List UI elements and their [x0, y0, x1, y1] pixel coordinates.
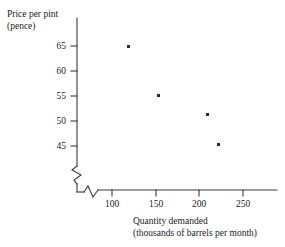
data-point [127, 45, 130, 48]
x-axis-title-line2: (thousands of barrels per month) [133, 228, 257, 238]
x-axis-title: Quantity demanded(thousands of barrels p… [133, 216, 257, 239]
y-axis-break-zigzag [72, 166, 81, 184]
x-axis-break-zigzag [84, 186, 98, 197]
data-point [217, 143, 220, 146]
data-point [157, 94, 160, 97]
demand-curve-scatter-chart: Price per pint(pence) 65 60 55 50 45 100… [0, 0, 285, 247]
x-axis-title-line1: Quantity demanded [133, 216, 208, 226]
axes-group [0, 0, 285, 247]
data-point [206, 113, 209, 116]
